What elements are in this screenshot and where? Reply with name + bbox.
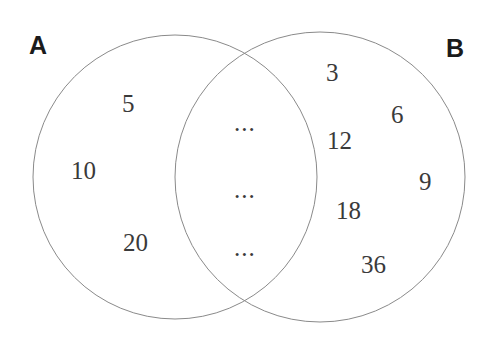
set-b-element: 6: [391, 102, 404, 127]
intersection-ellipsis: ...: [234, 177, 256, 202]
set-a-element: 5: [122, 91, 135, 116]
set-b-element: 3: [326, 60, 339, 85]
set-a-element: 20: [123, 230, 148, 255]
set-a-label: A: [29, 33, 47, 58]
intersection-ellipsis: ...: [234, 110, 256, 135]
set-b-label: B: [446, 36, 464, 61]
set-b-element: 9: [419, 169, 432, 194]
set-b-element: 18: [336, 198, 361, 223]
set-a-element: 10: [71, 158, 96, 183]
venn-diagram-canvas: A B 5 10 20 ... ... ... 3 6 12 9 18 36: [0, 0, 483, 337]
set-b-element: 36: [361, 252, 386, 277]
intersection-ellipsis: ...: [234, 235, 256, 260]
set-b-element: 12: [327, 128, 352, 153]
